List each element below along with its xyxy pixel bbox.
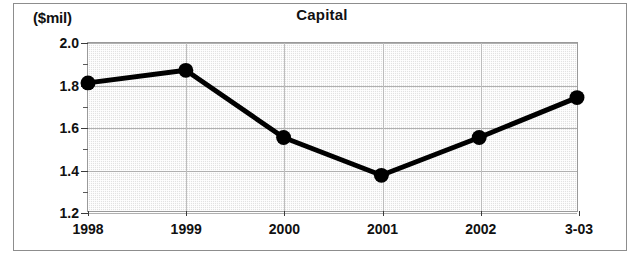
x-axis-tick	[88, 211, 89, 216]
x-axis-tick	[383, 211, 384, 216]
y-axis-tick	[81, 128, 88, 129]
y-axis-tick-label: 1.4	[60, 163, 79, 179]
data-point-marker	[276, 130, 291, 145]
data-point-marker	[81, 75, 96, 90]
y-axis-tick-label: 2.0	[60, 35, 79, 51]
x-axis-tick-label: 2002	[465, 221, 496, 237]
y-axis-tick-label: 1.8	[60, 78, 79, 94]
data-point-marker	[374, 168, 389, 183]
x-axis-tick-label: 3-03	[565, 221, 593, 237]
x-axis-tick-label: 1998	[72, 221, 103, 237]
x-axis-tick-label: 2001	[367, 221, 398, 237]
data-point-marker	[570, 90, 585, 105]
chart-figure: ($mil) Capital 1.21.41.61.82.0 199819992…	[0, 0, 644, 264]
series-line	[88, 70, 577, 175]
data-point-marker	[472, 130, 487, 145]
gridline-horizontal	[88, 213, 577, 214]
plot-area: 1.21.41.61.82.0 199819992000200120023-03	[87, 42, 578, 212]
x-axis-tick	[284, 211, 285, 216]
chart-title: Capital	[0, 6, 644, 23]
x-axis-tick	[481, 211, 482, 216]
y-axis-tick	[81, 171, 88, 172]
y-axis-tick-label: 1.6	[60, 120, 79, 136]
x-axis-tick	[186, 211, 187, 216]
data-point-marker	[178, 63, 193, 78]
x-axis-tick-label: 1999	[171, 221, 202, 237]
x-axis-tick-label: 2000	[269, 221, 300, 237]
y-axis-tick-label: 1.2	[60, 205, 79, 221]
data-series-capital	[88, 43, 577, 211]
y-axis-tick	[81, 213, 88, 214]
y-axis-tick	[81, 43, 88, 44]
x-axis-tick	[579, 211, 580, 216]
